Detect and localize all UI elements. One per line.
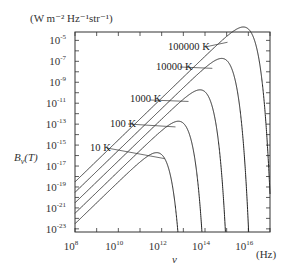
y-tick-label: 10-23 (46, 222, 67, 235)
y-tick-label: 10-21 (46, 201, 67, 214)
x-tick-label: 1016 (235, 239, 254, 252)
x-tick-label: 1010 (105, 239, 124, 252)
x-axis-unit: (Hz) (256, 248, 276, 261)
planck-curves (75, 27, 270, 232)
curve-labels: 10 K100 K1000 K10000 K100000 K (90, 41, 228, 159)
y-tick-label: 10-17 (46, 159, 67, 172)
y-tick-label: 10-9 (49, 75, 66, 88)
unit-label: (W m⁻² Hz⁻¹str⁻¹) (30, 12, 113, 25)
curve-100000k (75, 27, 270, 194)
curve-label-10000k: 10000 K (156, 61, 193, 72)
y-tick-label: 10-13 (46, 117, 67, 130)
curve-100k (75, 121, 202, 232)
x-axis-label: ν (172, 253, 177, 265)
x-tick-label: 108 (64, 239, 79, 252)
y-tick-label: 10-7 (49, 54, 66, 67)
x-tick-label: 1012 (149, 239, 168, 252)
curve-label-1000k: 1000 K (130, 93, 162, 104)
blackbody-spectrum-chart: 10-510-710-910-1110-1310-1510-1710-1910-… (0, 0, 289, 273)
curve-label-100k: 100 K (110, 118, 136, 129)
y-tick-label: 10-11 (46, 96, 67, 109)
curve-1000k (75, 90, 226, 232)
y-axis-label: Bν(T) (14, 151, 38, 166)
x-tick-label: 1014 (192, 239, 211, 252)
y-tick-label: 10-5 (49, 33, 66, 46)
curve-10k (75, 153, 178, 232)
curve-label-100000k: 100000 K (168, 41, 210, 52)
y-tick-label: 10-19 (46, 180, 67, 193)
curve-label-10k: 10 K (90, 142, 111, 153)
y-tick-label: 10-15 (46, 138, 67, 151)
